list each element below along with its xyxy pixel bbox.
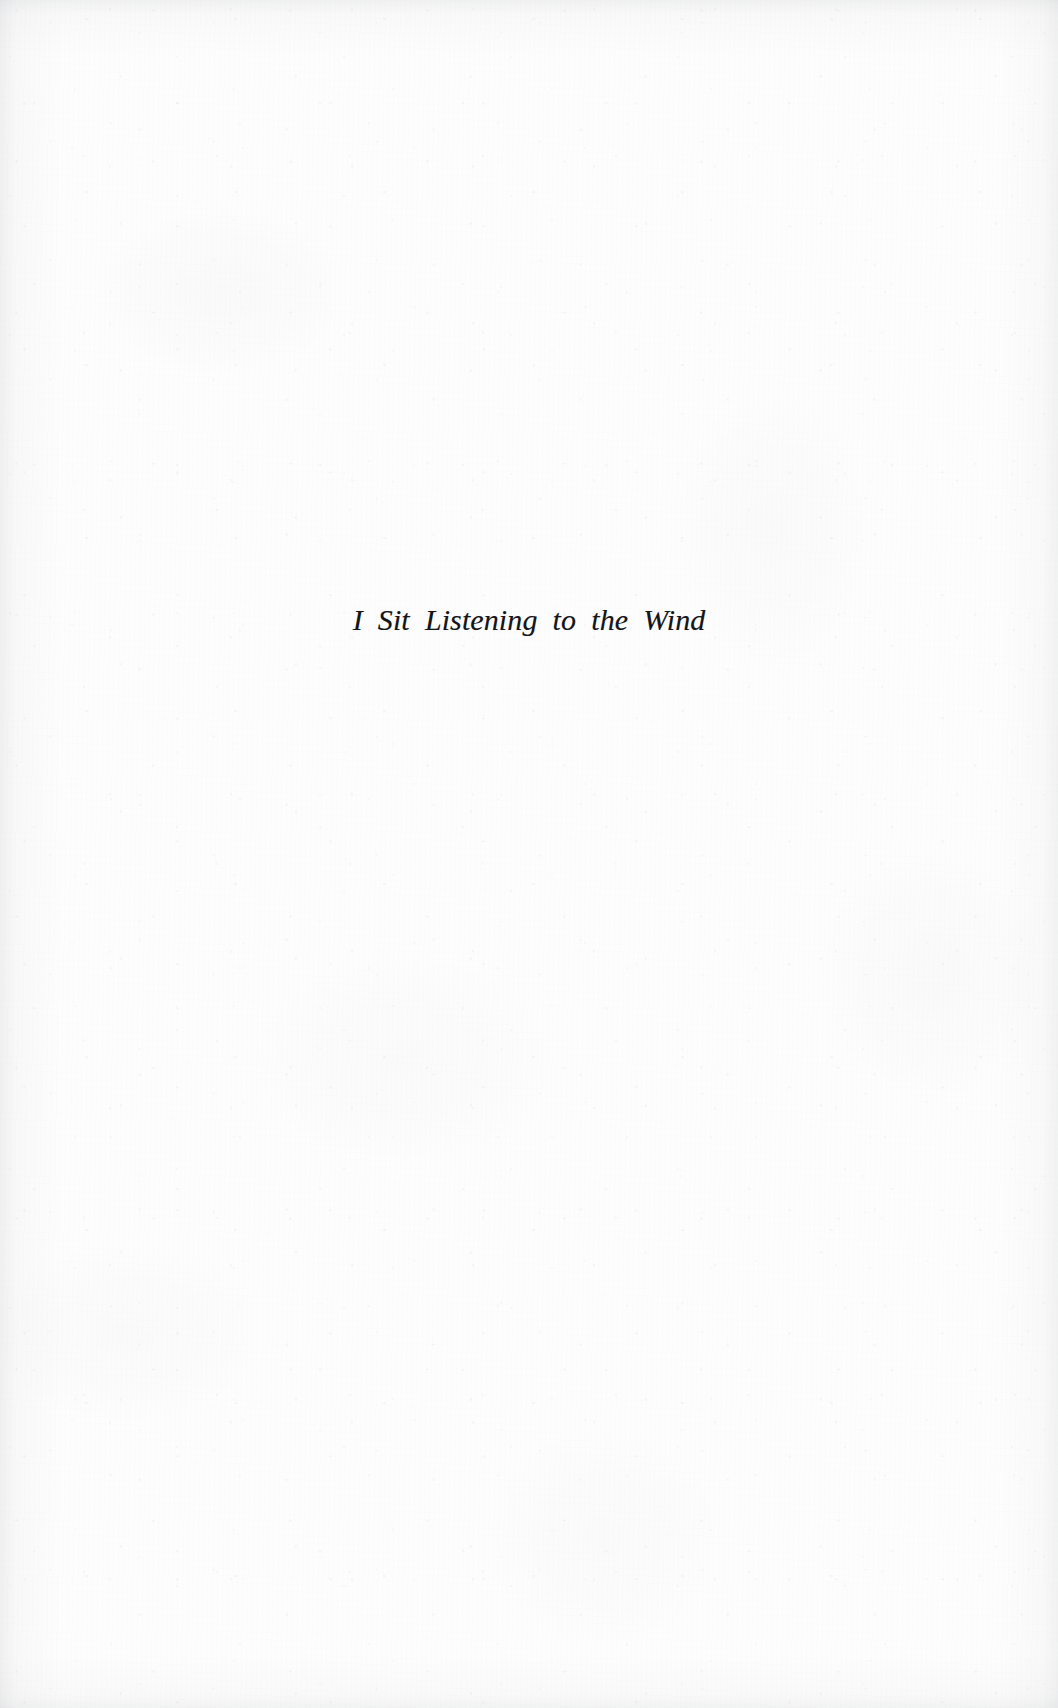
paper-mottling-texture xyxy=(0,0,1058,1708)
scan-edge-vignette xyxy=(0,0,1058,1708)
scanned-book-page: I Sit Listening to the Wind xyxy=(0,0,1058,1708)
section-title-block: I Sit Listening to the Wind xyxy=(0,602,1058,637)
paper-grain-texture xyxy=(0,0,1058,1708)
paper-fiber-texture xyxy=(0,0,1058,1708)
section-title: I Sit Listening to the Wind xyxy=(353,602,706,637)
